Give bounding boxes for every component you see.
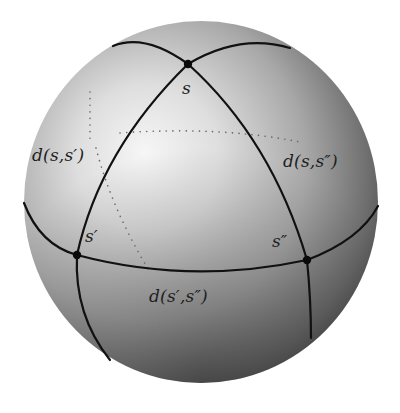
vertex-s-dot <box>184 60 192 68</box>
sphere-diagram <box>0 0 400 413</box>
vertex-s-double-prime-dot <box>303 256 311 264</box>
vertex-s-prime-dot <box>73 251 81 259</box>
edge-label-d-s-s-prime: d(s,s′) <box>32 147 84 164</box>
edge-label-d-s-s-double-prime: d(s,s″) <box>283 153 338 170</box>
vertex-label-s-prime: s′ <box>85 228 98 245</box>
edge-label-d-s-prime-s-double-prime: d(s′,s″) <box>149 288 208 305</box>
vertex-label-s-double-prime: s″ <box>272 233 287 250</box>
vertex-label-s: s <box>182 80 191 97</box>
